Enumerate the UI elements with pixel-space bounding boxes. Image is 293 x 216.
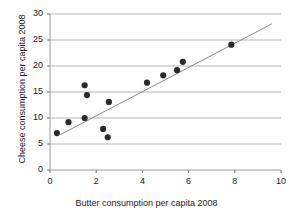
x-tick-label: 2 (87, 176, 105, 186)
data-point (65, 119, 71, 125)
x-tick-label: 6 (180, 176, 198, 186)
y-tick-label: 25 (25, 34, 43, 44)
x-tick-label: 4 (133, 176, 151, 186)
data-point (228, 42, 234, 48)
x-axis-title: Butter consumption per capita 2008 (0, 198, 293, 208)
data-point (100, 126, 106, 132)
y-tick-label: 0 (25, 164, 43, 174)
data-point (144, 80, 150, 86)
data-point (174, 67, 180, 73)
x-tick-label: 0 (41, 176, 59, 186)
x-tick-label: 10 (272, 176, 290, 186)
y-axis-title: Cheese consumption per capita 2008 (17, 4, 27, 174)
scatter-chart: 051015202530 0246810 Cheese consumption … (0, 0, 293, 216)
data-point (82, 82, 88, 88)
data-point (160, 72, 166, 78)
y-tick-label: 30 (25, 8, 43, 18)
x-tick-label: 8 (226, 176, 244, 186)
data-point (54, 130, 60, 136)
data-point (106, 99, 112, 105)
data-point (180, 59, 186, 65)
y-tick-label: 10 (25, 112, 43, 122)
data-point (82, 115, 88, 121)
data-point (105, 134, 111, 140)
data-point (84, 92, 90, 98)
y-tick-label: 5 (25, 138, 43, 148)
y-tick-label: 15 (25, 86, 43, 96)
y-tick-label: 20 (25, 60, 43, 70)
